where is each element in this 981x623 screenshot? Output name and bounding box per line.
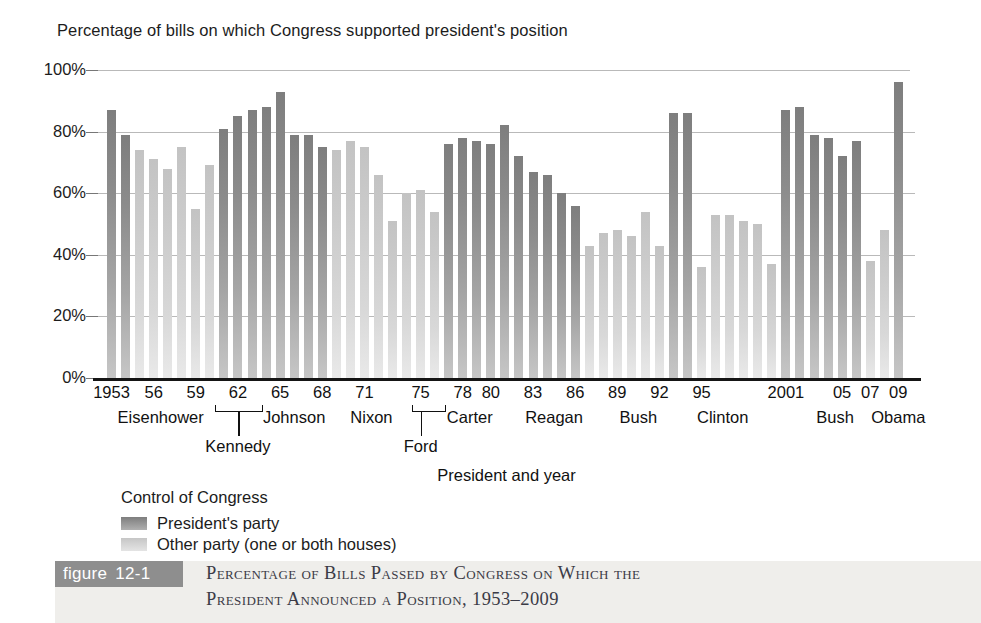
bar-1993 (669, 113, 678, 378)
legend-swatch-other-party (121, 538, 147, 551)
y-tick-label-20: 20% (26, 306, 86, 325)
y-tick-label-100: 100% (26, 60, 86, 79)
bar-1953 (107, 110, 116, 378)
bar-1973 (388, 221, 397, 378)
bar-1960 (205, 165, 214, 378)
bar-1966 (290, 135, 299, 378)
x-tick-label-2001: 2001 (768, 383, 805, 402)
bar-1985 (557, 193, 566, 378)
legend-swatch-presidents-party (121, 517, 147, 530)
legend-label-presidents-party: President's party (157, 514, 279, 533)
bar-2001 (781, 110, 790, 378)
x-tick-label-1956: 56 (144, 383, 162, 402)
figure-page: Percentage of bills on which Congress su… (0, 0, 981, 623)
bar-1996 (711, 215, 720, 378)
president-label-ford: Ford (404, 437, 438, 456)
bar-1995 (697, 267, 706, 378)
president-labels-row2: KennedyFord (98, 437, 915, 463)
bar-1977 (444, 144, 453, 378)
y-tick-mark-100 (86, 70, 98, 71)
bar-1984 (543, 175, 552, 378)
bar-1991 (641, 212, 650, 378)
president-label-eisenhower-1953: Eisenhower (118, 408, 204, 427)
y-tick-label-0: 0% (26, 368, 86, 387)
figure-caption-line2: President Announced a Position, 1953–200… (206, 586, 906, 612)
figure-caption-line1: Percentage of Bills Passed by Congress o… (206, 560, 906, 586)
bar-2006 (852, 141, 861, 378)
x-tick-label-1959: 59 (187, 383, 205, 402)
x-tick-label-1992: 92 (650, 383, 668, 402)
x-axis-title: President and year (98, 466, 915, 485)
bar-1959 (191, 209, 200, 378)
x-tick-label-2005: 05 (833, 383, 851, 402)
legend-item-other-party: Other party (one or both houses) (121, 535, 396, 554)
bar-1975 (416, 190, 425, 378)
x-tick-label-1995: 95 (692, 383, 710, 402)
bar-1976 (430, 212, 439, 378)
president-stem-kennedy (238, 412, 240, 436)
figure-tag-number: 12-1 (107, 564, 150, 584)
bar-2004 (824, 138, 833, 378)
bar-1978 (458, 138, 467, 378)
bar-1982 (514, 156, 523, 378)
president-label-kennedy: Kennedy (205, 437, 270, 456)
legend-label-other-party: Other party (one or both houses) (157, 535, 396, 554)
x-tick-label-1989: 89 (608, 383, 626, 402)
president-stem-ford (421, 412, 423, 436)
bar-1981 (500, 125, 509, 378)
bar-2002 (795, 107, 804, 378)
bar-1992 (655, 246, 664, 378)
bar-1980 (486, 144, 495, 378)
bar-1986 (571, 206, 580, 378)
y-tick-label-60: 60% (26, 183, 86, 202)
bar-1963 (248, 110, 257, 378)
bar-1972 (374, 175, 383, 378)
y-tick-label-80: 80% (26, 122, 86, 141)
chart-legend: Control of Congress President's party Ot… (121, 488, 396, 556)
figure-tag: figure 12-1 (55, 561, 183, 587)
bar-1987 (585, 246, 594, 378)
x-tick-label-2009: 09 (889, 383, 907, 402)
bar-1955 (135, 150, 144, 378)
bar-1967 (304, 135, 313, 378)
president-bracket-kennedy (215, 405, 263, 412)
president-label-bush-2001: Bush (816, 408, 854, 427)
president-label-carter-1977: Carter (447, 408, 493, 427)
bar-1956 (149, 159, 158, 378)
bar-2007 (866, 261, 875, 378)
bar-1964 (262, 107, 271, 378)
bar-1958 (177, 147, 186, 378)
y-tick-mark-20 (86, 316, 98, 317)
bar-1970 (346, 141, 355, 378)
bar-1965 (276, 92, 285, 378)
y-tick-mark-60 (86, 193, 98, 194)
legend-item-presidents-party: President's party (121, 514, 396, 533)
figure-caption: Percentage of Bills Passed by Congress o… (206, 560, 906, 612)
y-tick-label-40: 40% (26, 245, 86, 264)
bar-1974 (402, 193, 411, 378)
x-tick-label-2007: 07 (861, 383, 879, 402)
bar-1962 (233, 116, 242, 378)
y-tick-mark-80 (86, 132, 98, 133)
x-tick-label-1968: 68 (313, 383, 331, 402)
bar-1999 (753, 224, 762, 378)
x-tick-label-1971: 71 (355, 383, 373, 402)
bar-1994 (683, 113, 692, 378)
president-bracket-ford (412, 405, 446, 412)
bar-1979 (472, 141, 481, 378)
plot-area: 0%20%40%60%80%100% 195356596265687175788… (98, 70, 915, 378)
bar-1954 (121, 135, 130, 378)
bar-1961 (219, 129, 228, 378)
bar-2009 (894, 82, 903, 378)
y-tick-mark-40 (86, 255, 98, 256)
legend-title: Control of Congress (121, 488, 396, 507)
bar-2003 (810, 135, 819, 378)
x-tick-label-1962: 62 (229, 383, 247, 402)
x-tick-label-1953: 1953 (93, 383, 130, 402)
president-label-bush-1989: Bush (620, 408, 658, 427)
president-label-nixon-1969: Nixon (350, 408, 392, 427)
figure-tag-word: figure (55, 564, 107, 584)
bar-1989 (613, 230, 622, 378)
x-tick-label-1980: 80 (482, 383, 500, 402)
bar-2005 (838, 156, 847, 378)
